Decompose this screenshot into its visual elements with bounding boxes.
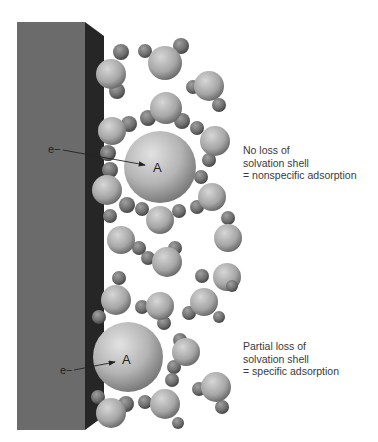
water-molecule: [226, 280, 238, 292]
annotation-line: solvation shell: [243, 353, 339, 366]
annotation-line: = specific adsorption: [243, 365, 339, 378]
water-molecule: [140, 92, 190, 129]
water-molecule: [214, 211, 242, 252]
water-molecule: [141, 241, 182, 277]
adsorbate-label: A: [153, 160, 162, 175]
annotation-line: Partial loss of: [243, 340, 339, 353]
electron-label: e−: [60, 364, 73, 376]
water-molecule: [192, 372, 231, 414]
water-molecule: [182, 288, 225, 323]
water-molecule: [91, 390, 134, 428]
water-molecule: [186, 71, 226, 112]
water-molecule: [190, 121, 230, 167]
water-molecule: [190, 170, 226, 214]
adsorbate-label: A: [122, 352, 131, 367]
annotation-line: solvation shell: [243, 157, 357, 170]
electron-label: e−: [48, 143, 61, 155]
water-molecule: [135, 202, 186, 234]
annotation-line: No loss of: [243, 144, 357, 157]
annotation-line: = nonspecific adsorption: [243, 169, 357, 182]
water-molecule: [135, 292, 174, 330]
water-molecule: [172, 417, 184, 429]
annotation-specific: Partial loss of solvation shell = specif…: [243, 340, 339, 378]
electrode-front-face: [17, 22, 85, 430]
water-molecule: [167, 333, 200, 374]
water-molecule: [103, 209, 146, 255]
annotation-nonspecific: No loss of solvation shell = nonspecific…: [243, 144, 357, 182]
water-molecule: [138, 38, 189, 80]
